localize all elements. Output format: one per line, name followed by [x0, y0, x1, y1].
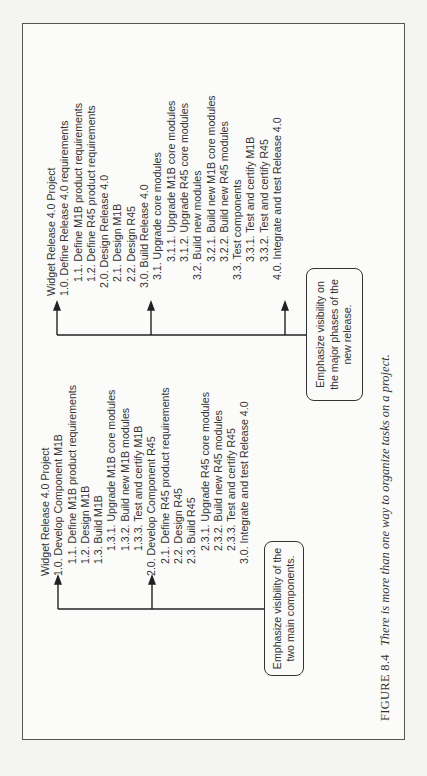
rotated-figure-canvas: Widget Release 4.0 Project 1.0. Develop …: [23, 24, 406, 741]
connector-lines: [23, 24, 406, 741]
figure-frame: Widget Release 4.0 Project 1.0. Develop …: [22, 23, 405, 740]
